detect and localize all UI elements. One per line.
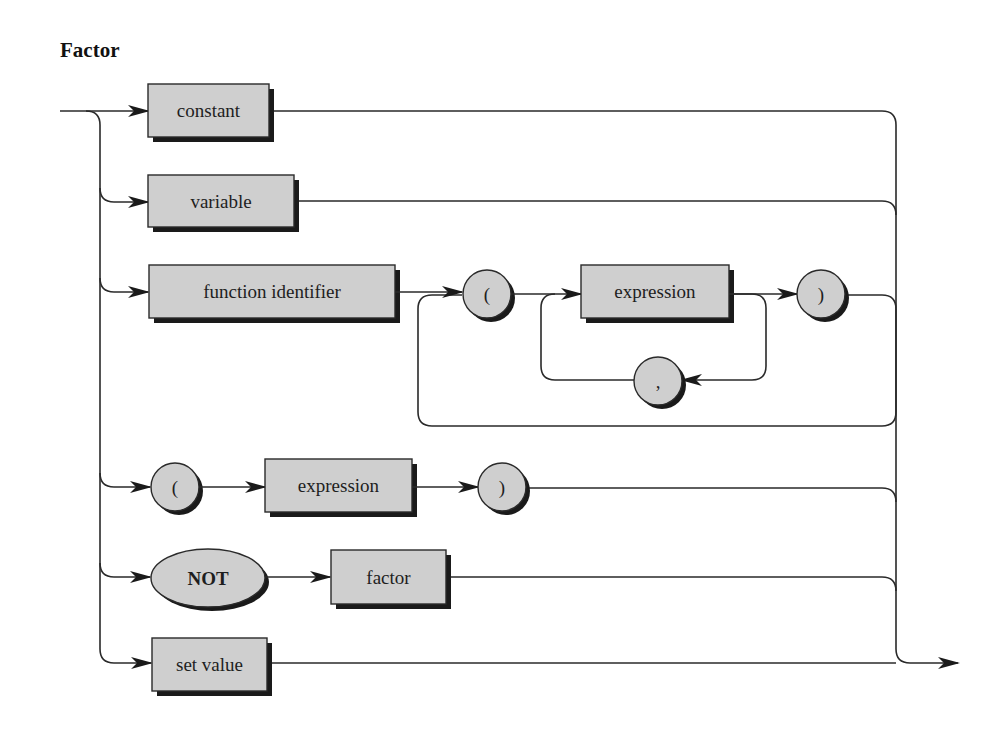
svg-text:,: , (656, 371, 661, 392)
diagram-title: Factor (60, 38, 119, 62)
svg-text:factor: factor (366, 567, 411, 588)
svg-text:expression: expression (614, 281, 696, 302)
svg-text:set value: set value (176, 654, 243, 675)
syntax-diagram: Factor constant variable function identi… (0, 0, 1001, 739)
node-factor[interactable]: factor (331, 550, 451, 609)
node-fn-expression[interactable]: expression (581, 265, 734, 323)
node-fn-open-paren[interactable]: ( (463, 270, 515, 322)
svg-text:variable: variable (190, 191, 251, 212)
svg-text:constant: constant (177, 100, 241, 121)
svg-text:): ) (818, 284, 824, 306)
svg-text:NOT: NOT (187, 568, 229, 589)
node-fn-comma[interactable]: , (634, 357, 686, 409)
node-paren-open[interactable]: ( (151, 463, 203, 515)
svg-text:(: ( (172, 477, 178, 499)
node-paren-close[interactable]: ) (478, 463, 530, 515)
node-set-value[interactable]: set value (152, 638, 272, 696)
node-fn-close-paren[interactable]: ) (797, 270, 849, 322)
node-paren-expression[interactable]: expression (265, 459, 417, 517)
svg-text:function identifier: function identifier (203, 281, 341, 302)
node-variable[interactable]: variable (148, 175, 299, 232)
svg-text:): ) (499, 477, 505, 499)
node-constant[interactable]: constant (148, 84, 274, 142)
svg-text:expression: expression (298, 475, 380, 496)
node-function-identifier[interactable]: function identifier (149, 265, 400, 323)
node-not[interactable]: NOT (151, 549, 269, 611)
entry-rails (60, 111, 151, 663)
svg-text:(: ( (484, 284, 490, 306)
